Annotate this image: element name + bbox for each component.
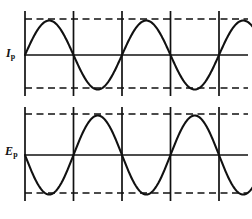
chart-ip — [25, 11, 252, 96]
axis-label-ep-subscript: p — [13, 150, 17, 159]
axis-label-ep: Ep — [5, 142, 18, 159]
axis-label-ep-base: E — [5, 144, 13, 158]
axis-label-ip-subscript: p — [11, 52, 15, 61]
waveform-figure: Ip Ep — [0, 0, 252, 219]
axis-label-ip: Ip — [6, 44, 15, 61]
chart-ep — [25, 107, 252, 201]
waveform-plot-area — [0, 0, 252, 219]
chart-ip-peak-dashed-lines — [25, 19, 248, 88]
chart-ep-peak-dashed-lines — [25, 114, 248, 193]
axis-label-ip-base: I — [6, 46, 11, 60]
